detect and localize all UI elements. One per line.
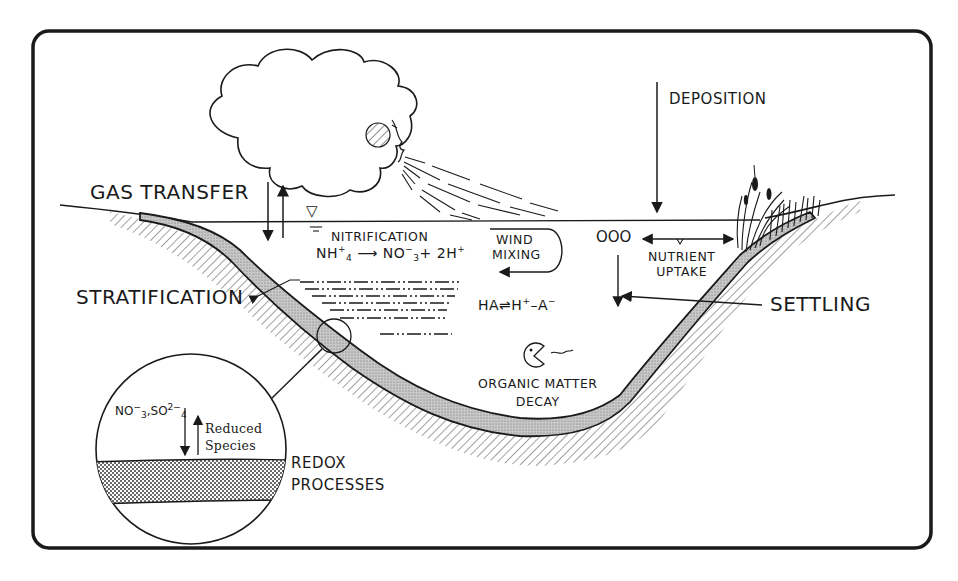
gas-transfer-label: GAS TRANSFER	[90, 180, 249, 204]
stratification-label: STRATIFICATION	[76, 285, 244, 309]
cloud-icon	[210, 49, 417, 196]
organic-matter-decay-label: ORGANIC MATTER DECAY	[478, 375, 598, 411]
water-level-symbol: ▽	[306, 202, 318, 220]
redox-processes-label: REDOX PROCESSES	[291, 452, 385, 496]
wind-mixing-label: WIND MIXING	[492, 232, 541, 262]
nitrification-label: NITRIFICATION	[331, 229, 428, 244]
nutrient-uptake-label: NUTRIENT UPTAKE	[648, 249, 715, 279]
frame-border	[50, 32, 450, 50]
cloud-cheek	[366, 123, 390, 147]
settling-label: SETTLING	[770, 292, 871, 316]
reduced-species-label: Reduced Species	[205, 420, 262, 454]
inset-oxidized-species: NO−3,SO2−4	[115, 402, 187, 420]
nitrification-equation: NH+4 ⟶ NO−3+ 2H+	[316, 244, 465, 263]
water-surface	[192, 220, 760, 222]
wind-rays	[402, 157, 558, 220]
bubbles-icon: OOO	[596, 228, 631, 246]
zoom-connector-line	[270, 349, 322, 400]
bacteria-icon	[524, 343, 544, 367]
water-level-marker	[310, 227, 322, 231]
acid-equilibrium-equation: HA⇌H+–A−	[478, 296, 556, 313]
deposition-label: DEPOSITION	[669, 90, 766, 108]
